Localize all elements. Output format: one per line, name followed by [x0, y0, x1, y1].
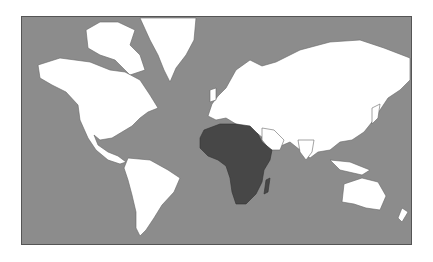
greenland [140, 18, 196, 82]
madagascar [264, 178, 270, 194]
new-zealand [398, 208, 408, 222]
australia [342, 178, 386, 210]
north-america [38, 58, 158, 164]
world-map [0, 0, 433, 262]
indonesia [330, 160, 370, 175]
south-america [124, 158, 180, 236]
uk [210, 88, 216, 102]
